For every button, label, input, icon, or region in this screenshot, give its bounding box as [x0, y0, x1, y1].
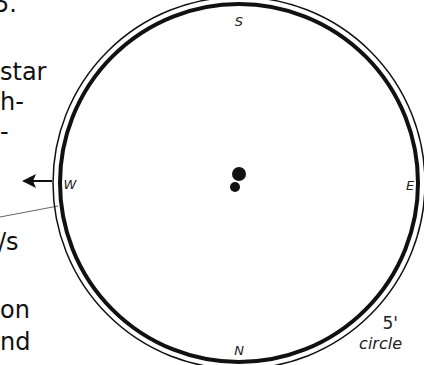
compass-east-label: E: [406, 178, 415, 193]
outer-ring: [53, 0, 424, 365]
center-token-icon: [230, 167, 246, 192]
circle-word-label: circle: [359, 334, 402, 353]
compass-south-label: S: [235, 14, 243, 29]
compass-north-label: N: [234, 343, 244, 358]
leader-line: [0, 206, 58, 217]
west-arrow-icon: [22, 174, 52, 188]
circle-size-label: 5': [383, 313, 399, 333]
compass-west-label: W: [64, 177, 78, 192]
compass-circle-diagram: S N W E 5' circle: [0, 0, 424, 365]
inner-ring: [60, 4, 418, 362]
